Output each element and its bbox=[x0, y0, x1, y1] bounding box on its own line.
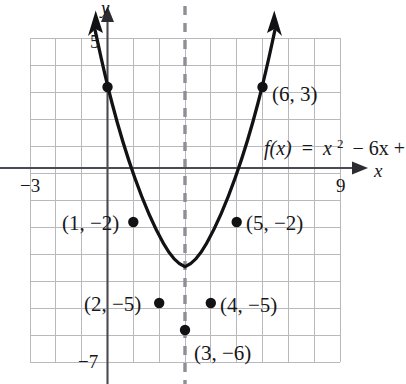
x-axis-label: x bbox=[373, 160, 383, 181]
parabola-figure: −3 9 5 −7 x y (1, −2) (2, −5) (3, −6) (4… bbox=[0, 0, 406, 384]
function-equation-label: f(x) = x 2 − 6x + bbox=[264, 130, 405, 160]
svg-text:f(x) = x: f(x) = x 2 − 6x + bbox=[264, 130, 405, 160]
point-marker-2-n5 bbox=[154, 298, 164, 308]
x-tick-label-minus3: −3 bbox=[20, 175, 40, 196]
coordinate-plane-graph: −3 9 5 −7 x y (1, −2) (2, −5) (3, −6) (4… bbox=[0, 0, 406, 384]
point-label-4-n5: (4, −5) bbox=[220, 293, 277, 317]
point-marker-4-n5 bbox=[206, 298, 216, 308]
point-label-6-3: (6, 3) bbox=[272, 82, 318, 106]
equation-exponent: 2 bbox=[337, 136, 344, 151]
equation-remainder: − 6x + bbox=[352, 137, 405, 159]
point-marker-1-n2 bbox=[128, 217, 138, 227]
x-tick-label-9: 9 bbox=[336, 175, 346, 196]
equation-variable-x: x bbox=[322, 137, 332, 159]
y-tick-label-minus7: −7 bbox=[78, 351, 98, 372]
point-marker-5-n2 bbox=[232, 217, 242, 227]
point-marker-3-n6 bbox=[180, 325, 190, 335]
point-label-1-n2: (1, −2) bbox=[62, 211, 119, 235]
point-marker-0-3 bbox=[102, 82, 112, 92]
point-label-5-n2: (5, −2) bbox=[246, 211, 303, 235]
equation-lhs: f(x) bbox=[264, 137, 292, 160]
y-tick-label-5: 5 bbox=[90, 31, 100, 52]
y-axis-label: y bbox=[99, 0, 110, 18]
x-axis-arrow-icon bbox=[352, 162, 368, 175]
point-label-3-n6: (3, −6) bbox=[194, 341, 251, 365]
equation-equals: = bbox=[302, 137, 313, 159]
point-label-2-n5: (2, −5) bbox=[84, 292, 141, 316]
point-marker-6-3 bbox=[257, 82, 267, 92]
